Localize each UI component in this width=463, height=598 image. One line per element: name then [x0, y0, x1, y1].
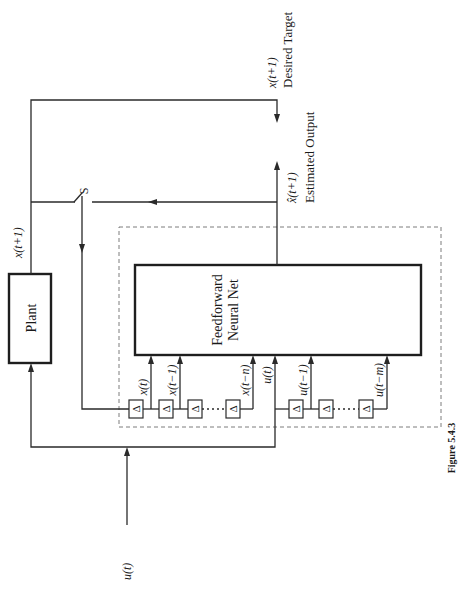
- neural-net-block: [135, 265, 421, 355]
- plant-output-line: [31, 100, 277, 274]
- u-tap-1-label: u(t−1): [296, 364, 310, 395]
- neural-net-label-line2: Neural Net: [226, 279, 241, 341]
- desired-arrow-icon: [274, 114, 280, 123]
- x-tap-1-label: x(t−1): [165, 365, 179, 397]
- plant-input-arrow-icon: [28, 363, 34, 372]
- delta-icon: Δ: [227, 405, 239, 412]
- x-delay-3: Δ: [188, 400, 202, 418]
- feedback-arrow-icon: [148, 199, 157, 205]
- desired-value-label: x(t+1): [265, 57, 279, 89]
- neural-net-label-line1: Feedforward: [210, 274, 225, 346]
- plant-label: Plant: [24, 304, 39, 333]
- u-delay-m: Δ: [359, 400, 373, 418]
- x-tap-n-arrow-icon: [250, 355, 256, 364]
- x-tap-0-label: x(t): [136, 379, 150, 397]
- estimated-value-label: x̂(t+1): [285, 172, 299, 204]
- diagram-canvas: Plant Feedforward Neural Net u(t) x(t+1)…: [0, 0, 463, 598]
- desired-target-label: Desired Target: [280, 11, 295, 88]
- delta-icon: Δ: [160, 405, 172, 412]
- delta-icon: Δ: [130, 405, 142, 412]
- u-delay-1: Δ: [289, 400, 303, 418]
- delta-icon: Δ: [360, 405, 372, 412]
- x-delay-1: Δ: [129, 400, 143, 418]
- switch-label: S: [77, 188, 91, 195]
- delta-icon: Δ: [320, 405, 332, 412]
- input-arrow-icon: [124, 447, 130, 456]
- x-tap-0-arrow-icon: [148, 355, 154, 364]
- figure-caption: Figure 5.4.3: [446, 423, 457, 474]
- input-label: u(t): [120, 563, 134, 580]
- estimated-arrow-icon: [274, 161, 280, 170]
- u-tap-1-arrow-icon: [308, 355, 314, 364]
- u-tap-0-label: u(t): [260, 366, 274, 383]
- switch-down-arrow-icon: [79, 244, 85, 253]
- x-delay-2: Δ: [159, 400, 173, 418]
- delta-icon: Δ: [290, 405, 302, 412]
- delta-icon: Δ: [189, 405, 201, 412]
- plant-output-label: x(t+1): [11, 227, 25, 259]
- x-tap-1-arrow-icon: [177, 355, 183, 364]
- x-tap-n-label: x(t−n): [238, 365, 252, 397]
- estimated-output-label: Estimated Output: [302, 111, 317, 203]
- switch-output-line: [82, 196, 129, 409]
- u-tap-m-label: u(t−m): [372, 363, 386, 397]
- x-delay-n: Δ: [226, 400, 240, 418]
- u-tap-arrow-icon: [272, 355, 278, 364]
- u-tap-m-arrow-icon: [384, 355, 390, 364]
- u-delay-2: Δ: [319, 400, 333, 418]
